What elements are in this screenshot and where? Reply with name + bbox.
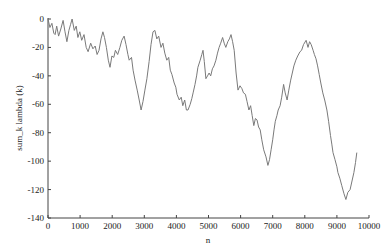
- y-tick-label: -140: [28, 213, 45, 223]
- x-tick-label: 6000: [232, 221, 251, 231]
- x-tick-label: 1000: [71, 221, 90, 231]
- y-tick-label: -20: [32, 42, 44, 52]
- x-tick-label: 0: [46, 221, 51, 231]
- chart: 0100020003000400050006000700080009000100…: [0, 0, 392, 251]
- y-tick-label: -60: [32, 99, 44, 109]
- x-tick-label: 4000: [167, 221, 186, 231]
- y-axis-ticks: 0-20-40-60-80-100-120-140: [28, 14, 52, 223]
- x-tick-label: 10000: [358, 221, 381, 231]
- x-tick-label: 9000: [328, 221, 347, 231]
- y-tick-label: -80: [32, 128, 44, 138]
- x-tick-label: 5000: [200, 221, 219, 231]
- y-tick-label: -120: [28, 185, 45, 195]
- line-chart: 0100020003000400050006000700080009000100…: [0, 0, 392, 251]
- x-tick-label: 7000: [264, 221, 283, 231]
- y-axis-label: sum_k lambda (k): [14, 85, 24, 151]
- y-tick-label: -100: [28, 156, 45, 166]
- x-tick-label: 2000: [103, 221, 122, 231]
- y-tick-label: 0: [40, 14, 45, 24]
- x-tick-label: 8000: [296, 221, 315, 231]
- data-line: [48, 19, 357, 200]
- y-tick-label: -40: [32, 71, 44, 81]
- x-axis-ticks: 0100020003000400050006000700080009000100…: [46, 215, 381, 231]
- x-tick-label: 3000: [135, 221, 154, 231]
- x-axis-label: n: [206, 235, 211, 245]
